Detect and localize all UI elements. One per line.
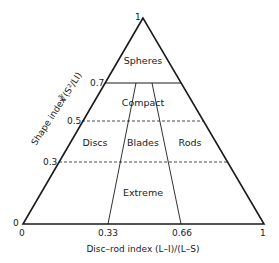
region-blades: Blades: [127, 137, 159, 148]
y-axis-formula: ∛(S²/LI): [57, 70, 84, 103]
x-tick-0.66: 0.66: [172, 228, 192, 238]
region-discs: Discs: [82, 137, 107, 148]
region-compact: Compact: [122, 97, 165, 108]
y-tick-0.3: 0.3: [43, 157, 57, 167]
y-tick-0.7: 0.7: [90, 78, 104, 88]
shape-classification-diagram: 1 0.7 0.5 0.3 0 0 0.33 0.66 1 Disc–rod i…: [0, 0, 279, 263]
region-rods: Rods: [179, 137, 202, 148]
x-tick-0: 0: [19, 228, 25, 238]
x-tick-0.33: 0.33: [98, 228, 118, 238]
apex-label: 1: [135, 12, 141, 22]
region-extreme: Extreme: [123, 187, 163, 198]
x-axis-title: Disc–rod index (L–I)/(L–S): [86, 244, 199, 254]
region-spheres: Spheres: [124, 55, 162, 66]
y-tick-0.5: 0.5: [67, 116, 81, 126]
y-tick-0: 0: [13, 218, 19, 228]
x-tick-1: 1: [260, 228, 266, 238]
y-axis-title-group: Shape index ∛(S²/LI): [28, 70, 83, 147]
